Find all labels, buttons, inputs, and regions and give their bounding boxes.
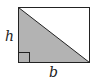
base-label: b (49, 64, 58, 80)
height-label: h (5, 28, 14, 44)
triangle-diagram: h b (0, 0, 93, 81)
